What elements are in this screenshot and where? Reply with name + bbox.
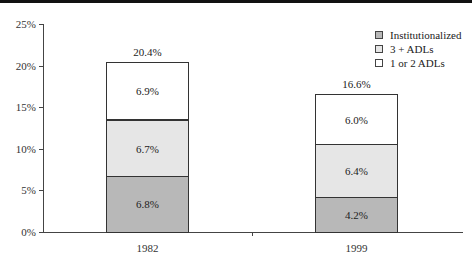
y-tick <box>39 232 43 233</box>
y-tick <box>39 24 43 25</box>
x-tick-label: 1982 <box>108 242 188 254</box>
legend-label: 3 + ADLs <box>390 42 433 56</box>
legend-swatch-icon <box>375 59 383 67</box>
legend-item-3-adls: 3 + ADLs <box>375 42 461 56</box>
legend-item-1-or-2-adls: 1 or 2 ADLs <box>375 56 461 70</box>
y-tick <box>39 149 43 150</box>
y-tick <box>39 190 43 191</box>
y-axis <box>43 24 44 233</box>
y-tick-label: 5% <box>0 184 36 196</box>
bar-segment: 6.9% <box>106 62 189 120</box>
y-tick-label: 25% <box>0 18 36 30</box>
bar-segment: 6.7% <box>106 120 189 177</box>
legend-label: Institutionalized <box>390 28 461 42</box>
y-tick-label: 15% <box>0 101 36 113</box>
legend-swatch-icon <box>375 31 383 39</box>
bar-total-label: 16.6% <box>315 78 398 90</box>
legend-item-institutionalized: Institutionalized <box>375 28 461 42</box>
bar-total-label: 20.4% <box>106 46 189 58</box>
y-tick <box>39 107 43 108</box>
top-border <box>0 0 472 3</box>
y-tick <box>39 66 43 67</box>
bar-segment: 4.2% <box>315 197 398 233</box>
bar-segment: 6.8% <box>106 175 189 233</box>
y-tick-label: 0% <box>0 226 36 238</box>
x-tick-label: 1999 <box>317 242 397 254</box>
bar-segment: 6.0% <box>315 94 398 145</box>
y-tick-label: 10% <box>0 143 36 155</box>
legend: Institutionalized 3 + ADLs 1 or 2 ADLs <box>375 28 461 70</box>
bar-segment: 6.4% <box>315 144 398 198</box>
x-tick-divider <box>252 232 253 236</box>
legend-label: 1 or 2 ADLs <box>390 56 445 70</box>
y-tick-label: 20% <box>0 60 36 72</box>
legend-swatch-icon <box>375 45 383 53</box>
